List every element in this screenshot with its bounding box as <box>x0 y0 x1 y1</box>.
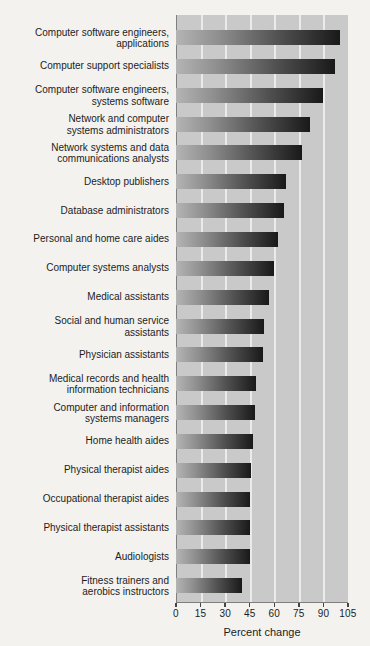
category-label: Desktop publishers <box>5 176 169 188</box>
axis-tick <box>323 603 325 607</box>
bar <box>176 117 310 132</box>
bar-row: Computer systems analysts <box>0 261 348 276</box>
bar-row: Medical records and health information t… <box>0 376 348 391</box>
bar-row: Audiologists <box>0 549 348 564</box>
bar <box>176 319 264 334</box>
category-label: Network systems and data communications … <box>5 141 169 164</box>
bar-row: Physical therapist aides <box>0 463 348 478</box>
bar <box>176 261 274 276</box>
axis-tick-label: 75 <box>293 608 305 619</box>
tick-labels-layer: 0153045607590105 <box>176 608 348 621</box>
category-label: Occupational therapist aides <box>5 493 169 505</box>
axis-tick <box>224 603 226 607</box>
category-label: Network and computer systems administrat… <box>5 113 169 136</box>
bar-row: Network and computer systems administrat… <box>0 117 348 132</box>
bar <box>176 232 278 247</box>
bar-row: Physical therapist assistants <box>0 520 348 535</box>
bar-row: Desktop publishers <box>0 174 348 189</box>
axis-tick <box>249 603 251 607</box>
category-label: Computer systems analysts <box>5 263 169 275</box>
bar <box>176 347 263 362</box>
bar <box>176 174 286 189</box>
axis-tick <box>200 603 202 607</box>
axis-tick <box>298 603 300 607</box>
category-label: Medical assistants <box>5 291 169 303</box>
bar-row: Computer software engineers, systems sof… <box>0 88 348 103</box>
bar-row: Database administrators <box>0 203 348 218</box>
bar-row: Personal and home care aides <box>0 232 348 247</box>
category-label: Physical therapist aides <box>5 465 169 477</box>
category-label: Home health aides <box>5 436 169 448</box>
bar-row: Computer and information systems manager… <box>0 405 348 420</box>
bar <box>176 434 253 449</box>
axis-tick-label: 30 <box>219 608 231 619</box>
bar <box>176 203 284 218</box>
x-axis-title: Percent change <box>176 626 348 638</box>
category-label: Computer and information systems manager… <box>5 401 169 424</box>
category-label: Physician assistants <box>5 349 169 361</box>
bar <box>176 88 323 103</box>
bar <box>176 463 251 478</box>
axis-tick <box>175 603 177 607</box>
bar <box>176 376 256 391</box>
category-label: Database administrators <box>5 205 169 217</box>
occupation-growth-bar-chart: Computer software engineers, application… <box>0 0 370 646</box>
axis-tick-label: 60 <box>269 608 281 619</box>
category-label: Computer software engineers, systems sof… <box>5 84 169 107</box>
bar <box>176 549 250 564</box>
bar <box>176 59 335 74</box>
category-label: Personal and home care aides <box>5 234 169 246</box>
bar-row: Network systems and data communications … <box>0 145 348 160</box>
category-label: Fitness trainers and aerobics instructor… <box>5 574 169 597</box>
bar <box>176 30 340 45</box>
bar <box>176 145 302 160</box>
category-label: Computer software engineers, application… <box>5 26 169 49</box>
category-label: Social and human service assistants <box>5 315 169 338</box>
bar-row: Physician assistants <box>0 347 348 362</box>
bar <box>176 578 242 593</box>
bar-row: Computer software engineers, application… <box>0 30 348 45</box>
bar-row: Fitness trainers and aerobics instructor… <box>0 578 348 593</box>
axis-tick-label: 15 <box>195 608 207 619</box>
bar-row: Home health aides <box>0 434 348 449</box>
category-label: Audiologists <box>5 551 169 563</box>
category-label: Medical records and health information t… <box>5 372 169 395</box>
axis-tick-label: 90 <box>318 608 330 619</box>
bar <box>176 520 250 535</box>
bar <box>176 405 255 420</box>
axis-tick-label: 0 <box>173 608 179 619</box>
bar-row: Occupational therapist aides <box>0 492 348 507</box>
bar-row: Computer support specialists <box>0 59 348 74</box>
bar <box>176 290 269 305</box>
axis-tick <box>274 603 276 607</box>
axis-tick <box>347 603 349 607</box>
category-label: Computer support specialists <box>5 61 169 73</box>
axis-tick-label: 105 <box>339 608 356 619</box>
bar-row: Medical assistants <box>0 290 348 305</box>
bar-row: Social and human service assistants <box>0 319 348 334</box>
bar <box>176 492 250 507</box>
axis-tick-label: 45 <box>244 608 256 619</box>
category-label: Physical therapist assistants <box>5 522 169 534</box>
rows-layer: Computer software engineers, application… <box>0 15 348 603</box>
